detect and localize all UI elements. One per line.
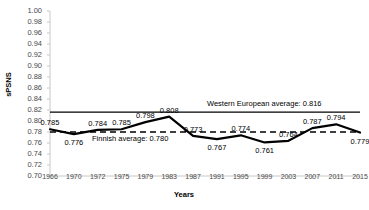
western-european-average-label: Western European average: 0.816 xyxy=(207,99,322,108)
x-tick-label: 1995 xyxy=(233,173,249,180)
finnish-average-label: Finnish average: 0.780 xyxy=(92,134,168,143)
data-point-label: 0.773 xyxy=(184,125,203,134)
x-tick-label: 1972 xyxy=(90,173,106,180)
x-tick-label: 1966 xyxy=(42,173,58,180)
data-point-label: 0.794 xyxy=(327,113,346,122)
x-tick-label: 1975 xyxy=(114,173,130,180)
data-point-label: 0.774 xyxy=(231,124,250,133)
x-tick-label: 1979 xyxy=(138,173,154,180)
x-tick-label: 2011 xyxy=(329,173,344,180)
x-tick-label: 1987 xyxy=(185,173,201,180)
data-point-label: 0.761 xyxy=(255,146,274,155)
data-point-label: 0.764 xyxy=(279,130,298,139)
data-point-label: 0.767 xyxy=(208,143,227,152)
x-tick-label: 1991 xyxy=(209,173,225,180)
x-tick-label: 2003 xyxy=(281,173,297,180)
x-tick-label: 2015 xyxy=(352,173,368,180)
x-axis-title: Years xyxy=(0,190,368,199)
data-point-label: 0.779 xyxy=(351,137,369,146)
data-point-label: 0.798 xyxy=(136,111,155,120)
data-point-label: 0.785 xyxy=(41,118,60,127)
data-point-label: 0.787 xyxy=(303,117,322,126)
x-tick-label: 1999 xyxy=(257,173,273,180)
x-tick-label: 1970 xyxy=(66,173,82,180)
data-point-label: 0.808 xyxy=(160,106,179,115)
data-point-label: 0.776 xyxy=(64,138,83,147)
x-tick-label: 2007 xyxy=(305,173,321,180)
x-tick-label: 1983 xyxy=(161,173,177,180)
data-point-label: 0.784 xyxy=(88,119,107,128)
data-point-label: 0.785 xyxy=(112,118,131,127)
